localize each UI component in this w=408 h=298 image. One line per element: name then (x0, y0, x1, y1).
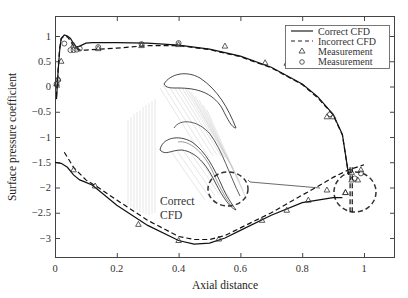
y-tick-label: −3 (40, 233, 51, 244)
inset-label-line1: Correct (160, 195, 195, 207)
measurement-triangle-marker (222, 43, 228, 48)
x-tick-label: 0.6 (234, 263, 247, 274)
y-tick-label: −1.5 (32, 157, 51, 168)
y-tick-label: −1 (40, 132, 51, 143)
x-tick-label: 0.2 (110, 263, 123, 274)
legend-label-measurement-circle: Measurement (318, 56, 373, 67)
correct-cfd-line (55, 162, 342, 244)
measurement-triangle-marker (343, 190, 349, 195)
x-tick-label: 0 (52, 263, 57, 274)
x-tick-label: 0.4 (172, 263, 186, 274)
y-tick-label: 0.5 (38, 56, 51, 67)
y-tick-label: 0 (46, 81, 51, 92)
blade-inset-image (128, 74, 247, 215)
incorrect-cfd-line (64, 152, 364, 239)
x-tick-label: 1 (361, 263, 366, 274)
y-axis-label: Surface pressure coefficient (6, 72, 19, 201)
measurement-circle-marker (328, 112, 333, 117)
measurement-circle-marker (352, 176, 357, 181)
x-axis-label: Axial distance (192, 279, 258, 291)
measurement-triangle-marker (136, 221, 142, 226)
inset-label-line2: CFD (160, 209, 182, 221)
y-tick-label: −2 (40, 182, 51, 193)
y-tick-label: 1 (46, 31, 51, 42)
x-tick-label: 0.8 (296, 263, 309, 274)
trailing-edge-highlight-chart (334, 172, 376, 212)
measurement-triangle-marker (262, 60, 268, 65)
legend: Correct CFD Incorrect CFD Measurement Me… (286, 26, 390, 69)
pressure-coefficient-chart: 00.20.40.60.81 10.50−0.5−1−1.5−2−2.5−3 A… (0, 0, 408, 298)
measurement-triangle-marker (355, 177, 361, 182)
x-axis-tick-labels: 00.20.40.60.81 (52, 263, 366, 274)
measurement-triangle-marker (324, 187, 330, 192)
connector-line (248, 180, 320, 188)
y-axis-tick-labels: 10.50−0.5−1−1.5−2−2.5−3 (32, 31, 51, 244)
measurement-circle-marker (62, 41, 67, 46)
y-tick-label: −2.5 (32, 207, 51, 218)
y-tick-label: −0.5 (32, 106, 51, 117)
legend-label-measurement-triangle: Measurement (318, 46, 373, 57)
